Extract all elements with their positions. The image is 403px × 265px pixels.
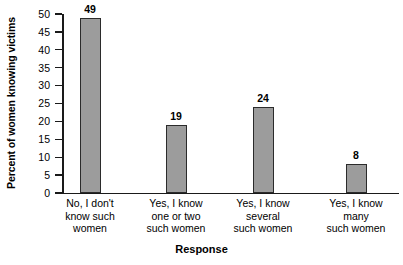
y-tick-mark <box>55 121 62 122</box>
y-tick-label: 45 <box>26 27 50 38</box>
bar-value-label: 19 <box>156 111 196 122</box>
y-tick-label: 25 <box>26 98 50 109</box>
y-tick-label: 30 <box>26 80 50 91</box>
x-category-label: Yes, I know many such women <box>312 197 400 235</box>
y-tick-label: 50 <box>26 9 50 20</box>
bar-chart-figure: Percent of women knowing victims 5045403… <box>0 0 403 265</box>
y-tick-mark <box>55 85 62 86</box>
y-tick-mark <box>55 31 62 32</box>
x-axis-title: Response <box>0 243 403 255</box>
y-tick-label: 35 <box>26 63 50 74</box>
y-tick-mark <box>55 103 62 104</box>
bar <box>253 107 274 193</box>
y-tick-label: 10 <box>26 152 50 163</box>
y-tick-mark <box>55 192 62 193</box>
y-axis-title: Percent of women knowing victims <box>5 8 17 198</box>
y-tick-mark <box>55 49 62 50</box>
y-tick-mark <box>55 174 62 175</box>
bar <box>80 18 101 193</box>
y-tick-mark <box>55 13 62 14</box>
y-tick-mark <box>55 67 62 68</box>
y-tick-label: 5 <box>26 170 50 181</box>
y-tick-mark <box>55 139 62 140</box>
plot-area <box>62 14 399 193</box>
y-tick-mark <box>55 157 62 158</box>
y-tick-label: 20 <box>26 116 50 127</box>
bar <box>346 164 367 193</box>
y-tick-label: 15 <box>26 134 50 145</box>
x-category-label: Yes, I know several such women <box>219 197 307 235</box>
bar-value-label: 49 <box>70 4 110 15</box>
x-category-label: Yes, I know one or two such women <box>132 197 220 235</box>
x-category-label: No, I don't know such women <box>46 197 134 235</box>
bar <box>166 125 187 193</box>
y-tick-label: 40 <box>26 45 50 56</box>
bar-value-label: 8 <box>336 150 376 161</box>
bar-value-label: 24 <box>243 93 283 104</box>
